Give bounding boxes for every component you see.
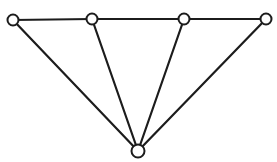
vertex-top-4 (261, 14, 272, 25)
edge-apex-top-2 (92, 19, 138, 151)
vertex-top-3 (179, 14, 190, 25)
edges-layer (13, 19, 266, 151)
edge-top-1-top-2 (13, 19, 92, 20)
vertex-apex (132, 145, 145, 158)
vertex-top-2 (87, 14, 98, 25)
nodes-layer (8, 14, 272, 158)
vertex-top-1 (8, 15, 19, 26)
graph-canvas (0, 0, 277, 162)
edge-apex-top-1 (13, 20, 138, 151)
edge-apex-top-3 (138, 19, 184, 151)
edge-apex-top-4 (138, 19, 266, 151)
graph-figure (0, 0, 277, 162)
